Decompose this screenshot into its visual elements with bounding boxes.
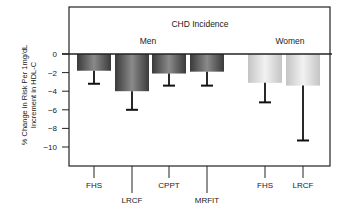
bar [190,54,224,72]
x-tick-label: CPPT [158,181,179,190]
bar [115,54,149,91]
y-tick-label: −4 [48,87,58,96]
group-label-women: Women [275,36,304,46]
y-tick-label: −2 [48,69,58,78]
bar [77,54,111,71]
x-tick-label: LRCF [293,181,314,190]
chart-title: CHD Incidence [171,19,228,29]
y-tick-label: 0 [53,50,58,59]
bar [152,54,186,74]
x-tick-label: FHS [86,181,102,190]
y-axis-title: % Change in Risk Per 1mg/dL Increment in… [20,45,38,145]
y-axis: 0−2−4−6−8−10 [43,50,69,152]
chart: 0−2−4−6−8−10 FHSLRCFCPPTMRFITFHSLRCF CHD… [0,0,355,211]
svg-text:Increment in HDL-C: Increment in HDL-C [29,61,38,128]
bar [286,54,320,86]
x-tick-label: MRFIT [195,196,220,205]
x-axis: FHSLRCFCPPTMRFITFHSLRCF [86,166,314,205]
x-tick-label: FHS [257,181,273,190]
plot-frame [69,7,330,166]
bars [77,54,320,140]
y-tick-label: −8 [48,124,58,133]
svg-text:% Change in Risk Per 1mg/dL: % Change in Risk Per 1mg/dL [20,45,29,145]
y-tick-label: −10 [43,143,57,152]
y-tick-label: −6 [48,106,58,115]
group-label-men: Men [140,36,157,46]
x-tick-label: LRCF [122,196,143,205]
bar [248,54,282,83]
